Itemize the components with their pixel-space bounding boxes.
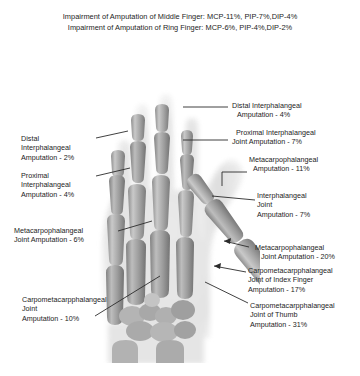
label-distal-interphalangeal-amputation-ring: Distal Interphalangeal Amputation - 2% [21, 134, 74, 162]
label-line: Amputation - 17% [248, 285, 333, 294]
label-carpometacarpphalangeal-joint-thumb: Carpometacarpphalangeal Joint of Thumb A… [250, 301, 335, 329]
label-metacarpophalangeal-joint-amputation-ring: Metacarpophalangeal Joint Amputation - 6… [14, 226, 84, 245]
label-metacarpophalangeal-amputation: Metacarpophalangeal Amputation - 11% [249, 155, 318, 174]
label-line: Joint [22, 304, 107, 313]
hand-radiograph [88, 38, 260, 363]
label-line: Carpometacarpphalangeal [248, 266, 333, 275]
label-line: Amputation - 11% [249, 164, 318, 173]
label-interphalangeal-joint-amputation: Interphalangeal Joint Amputation - 7% [257, 191, 310, 219]
label-line: Proximal Interphalangeal [232, 128, 316, 137]
label-line: Amputation - 7% [257, 210, 310, 219]
impairment-amputation-diagram: Impairment of Amputation of Middle Finge… [0, 0, 360, 376]
label-distal-interphalangeal-amputation: Distal Interphalangeal Amputation - 4% [232, 101, 302, 120]
label-carpometacarpphalangeal-joint-index: Carpometacarpphalangeal Joint of Index F… [248, 266, 333, 294]
label-line: Interphalangeal [21, 180, 74, 189]
label-metacarpophalangeal-joint-amputation: Metacarpophalangeal Joint Amputation - 2… [255, 243, 335, 262]
label-line: Metacarpophalangeal [249, 155, 318, 164]
label-line: Distal Interphalangeal [232, 101, 302, 110]
label-line: Interphalangeal [21, 143, 74, 152]
label-line: Joint Amputation - 7% [232, 137, 316, 146]
label-line: Joint Amputation - 6% [14, 235, 84, 244]
caption-line-middle-finger: Impairment of Amputation of Middle Finge… [0, 11, 360, 22]
label-line: Interphalangeal [257, 191, 310, 200]
label-line: Joint of Thumb [250, 310, 335, 319]
label-line: Carpometacarpphalangeal [250, 301, 335, 310]
caption-line-ring-finger: Impairment of Amputation of Ring Finger:… [0, 22, 360, 33]
label-line: Amputation - 2% [21, 153, 74, 162]
label-line: Amputation - 31% [250, 320, 335, 329]
label-line: Distal [21, 134, 74, 143]
caption-header: Impairment of Amputation of Middle Finge… [0, 11, 360, 33]
label-line: Amputation - 10% [22, 314, 107, 323]
label-line: Joint Amputation - 20% [255, 252, 335, 261]
label-line: Metacarpophalangeal [255, 243, 335, 252]
label-line: Metacarpophalangeal [14, 226, 84, 235]
label-proximal-interphalangeal-joint-amputation: Proximal Interphalangeal Joint Amputatio… [232, 128, 316, 147]
label-proximal-interphalangeal-amputation-ring: Proximal Interphalangeal Amputation - 4% [21, 171, 74, 199]
label-line: Amputation - 4% [21, 190, 74, 199]
label-line: Joint of Index Finger [248, 275, 333, 284]
label-line: Joint [257, 200, 310, 209]
label-carpometacarpphalangeal-joint-amputation: Carpometacarpphalangeal Joint Amputation… [22, 295, 107, 323]
label-line: Proximal [21, 171, 74, 180]
label-line: Carpometacarpphalangeal [22, 295, 107, 304]
label-line: Amputation - 4% [232, 110, 302, 119]
